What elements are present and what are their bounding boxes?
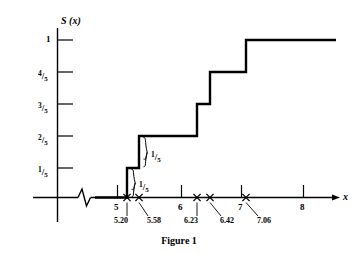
data-label-6-23: 6.23 [184,217,198,225]
axis-break-zigzag-icon [78,189,91,206]
y-tick-2-5-numerator: 2 [38,133,42,142]
leader-6-42 [210,203,221,217]
data-label-7-06: 7.06 [257,217,271,225]
y-tick-3-5-numerator: 3 [38,101,42,110]
brace-lower-numerator: 1 [139,180,143,189]
x-axis-label: x [343,192,348,202]
x-tick-label-7: 7 [238,203,243,212]
y-tick-4-5-denominator: 5 [44,75,48,83]
y-tick-1-5-denominator: 5 [44,171,48,179]
brace-upper-numerator: 1 [151,150,155,159]
brace-upper-denominator: 5 [157,156,161,164]
y-tick-label-1-5: 1/5 [38,162,48,180]
leader-5-58 [139,203,148,217]
y-tick-1-5-numerator: 1 [38,165,42,174]
y-tick-label-1: 1 [46,35,51,44]
x-tick-label-6: 6 [178,203,183,212]
brace-upper-label: 1/5 [151,147,161,165]
step-function-plot [0,0,358,254]
y-axis-label: S (x) [61,16,81,26]
data-label-5-20: 5.20 [114,217,128,225]
y-tick-label-2-5: 2/5 [38,130,48,148]
y-tick-label-3-5: 3/5 [38,98,48,116]
brace-lower-icon [132,169,136,196]
data-label-6-42: 6.42 [220,217,234,225]
y-tick-4-5-numerator: 4 [38,69,42,78]
x-axis-line [33,189,340,206]
brace-upper-icon [144,138,148,167]
leader-7-06 [246,203,258,217]
y-tick-3-5-denominator: 5 [44,107,48,115]
figure-container: S (x) x 1 4/5 3/5 2/5 1/5 5 6 7 8 5.20 5… [0,0,358,254]
brace-lower-denominator: 5 [145,186,149,194]
brace-lower-label: 1/5 [139,177,149,195]
y-tick-2-5-denominator: 5 [44,139,48,147]
y-axis-ticks [58,40,74,168]
y-tick-label-4-5: 4/5 [38,66,48,84]
x-tick-label-5: 5 [114,203,119,212]
data-label-5-58: 5.58 [147,217,161,225]
x-tick-label-8: 8 [300,203,305,212]
x-axis-arrowhead-icon [332,195,340,201]
step-function-curve [95,40,336,198]
figure-caption: Figure 1 [0,235,358,246]
